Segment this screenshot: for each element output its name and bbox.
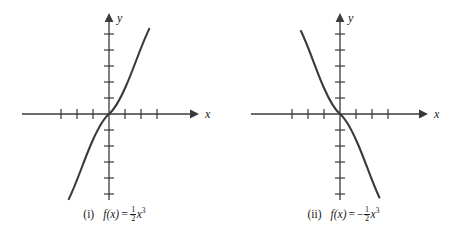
plot-i: x y bbox=[0, 0, 229, 210]
caption-roman-ii: (ii) bbox=[307, 208, 321, 220]
y-axis-label-i: y bbox=[116, 11, 123, 25]
y-axis-arrowhead-i bbox=[105, 13, 114, 22]
caption-i: (i)f(x)=12x3 bbox=[0, 206, 229, 224]
two-cubic-graphs-figure: x y (i)f(x)=12x3 bbox=[0, 0, 458, 241]
y-axis-arrowhead-ii bbox=[336, 13, 345, 22]
x-axis-label-ii: x bbox=[433, 107, 440, 121]
caption-roman-i: (i) bbox=[83, 208, 94, 220]
caption-equals-ii: = bbox=[347, 208, 358, 220]
graph-panel-ii: x y (ii)f(x)=−12x3 bbox=[229, 0, 458, 241]
caption-fraction-ii: 12 bbox=[364, 206, 370, 224]
caption-exponent-ii: 3 bbox=[376, 206, 380, 215]
caption-fraction-i: 12 bbox=[130, 206, 136, 224]
caption-function-i: f(x) bbox=[103, 208, 119, 220]
plot-ii: x y bbox=[229, 0, 458, 210]
x-axis-arrowhead-i bbox=[190, 110, 199, 119]
caption-ii: (ii)f(x)=−12x3 bbox=[229, 206, 458, 224]
x-axis-label-i: x bbox=[204, 107, 211, 121]
caption-sign-ii: − bbox=[357, 208, 364, 220]
fraction-denominator-i: 2 bbox=[130, 215, 136, 223]
graph-panel-i: x y (i)f(x)=12x3 bbox=[0, 0, 229, 241]
y-axis-label-ii: y bbox=[347, 11, 354, 25]
caption-equals-i: = bbox=[119, 208, 130, 220]
fraction-denominator-ii: 2 bbox=[364, 215, 370, 223]
caption-exponent-i: 3 bbox=[142, 206, 146, 215]
x-axis-arrowhead-ii bbox=[419, 110, 428, 119]
caption-function-ii: f(x) bbox=[331, 208, 347, 220]
